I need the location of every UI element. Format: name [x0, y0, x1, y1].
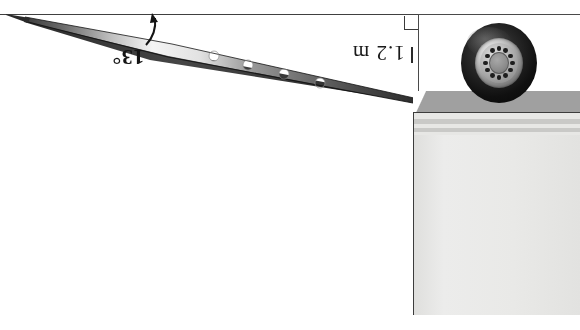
trailer-body-icon	[413, 112, 580, 315]
angle-label: 13°	[112, 46, 144, 68]
body-stripe-upper	[414, 119, 580, 124]
height-label: 1.2 m	[352, 40, 405, 65]
lug-bolt	[490, 48, 495, 53]
deck-top-edge	[418, 14, 580, 15]
lug-bolt	[490, 73, 495, 78]
hub-center	[489, 52, 509, 74]
lug-bolt	[485, 68, 490, 73]
dimension-tick	[411, 47, 413, 63]
lug-bolt	[497, 75, 502, 80]
lug-bolt	[483, 61, 488, 66]
deck-vertical-edge	[418, 14, 419, 102]
ground-line-icon	[0, 14, 420, 15]
right-angle-marker	[404, 16, 418, 30]
truck-wheel-icon	[461, 23, 537, 103]
lug-bolt	[510, 61, 515, 66]
body-stripe-lower	[414, 128, 580, 132]
lug-bolt	[503, 73, 508, 78]
platform-bevel	[413, 91, 433, 112]
body-sheen	[414, 135, 580, 315]
ramp-diagram: 13° 1.2 m	[0, 0, 580, 330]
lug-bolt	[485, 54, 490, 59]
